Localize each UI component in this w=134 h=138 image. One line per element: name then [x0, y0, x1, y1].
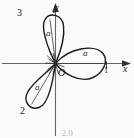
- figure-caption: 2.0: [0, 128, 134, 138]
- rose-curve-plot: [0, 0, 134, 138]
- petal-number-label-3: 3: [17, 8, 22, 18]
- petal-dimension-label-right: a: [83, 49, 88, 58]
- petal-dimension-label-lower-left: a: [35, 83, 40, 92]
- y-axis-label: y: [54, 3, 58, 13]
- petal-number-label-2: 2: [20, 106, 25, 116]
- origin-label: O: [58, 68, 65, 78]
- x-axis-label: x: [123, 64, 127, 74]
- figure-caption-text: 2.0: [61, 128, 72, 138]
- x-axis: [2, 60, 131, 69]
- x-axis-tick-label-1: 1: [104, 67, 108, 75]
- polar-rose-figure: y x O 1 3 2 a a a 2.0: [0, 0, 134, 138]
- petal-dimension-label-upper-left: a: [46, 29, 51, 38]
- dimension-leader-lines: [32, 20, 104, 105]
